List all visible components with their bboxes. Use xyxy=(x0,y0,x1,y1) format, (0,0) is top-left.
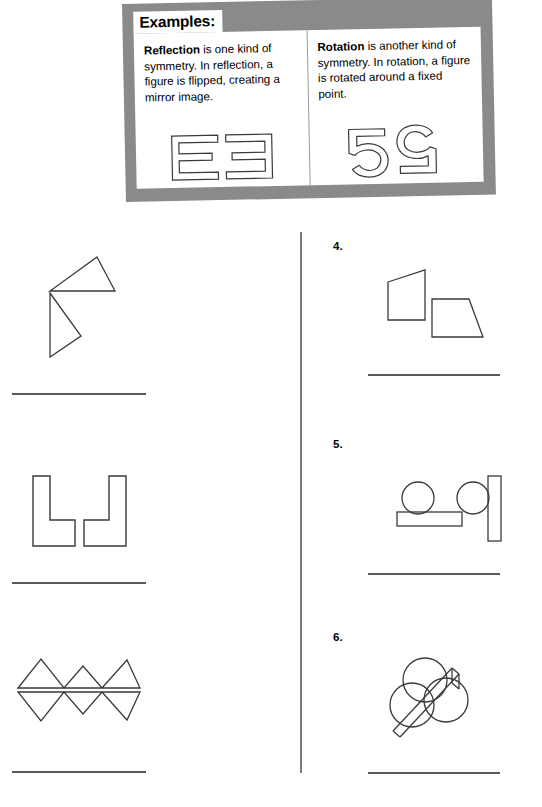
examples-panels: Reflection is one kind of symmetry. In r… xyxy=(134,27,484,189)
two-l-shapes-mirror-icon xyxy=(28,470,138,554)
examples-title-box: Examples: xyxy=(133,10,222,34)
answer-line-3[interactable] xyxy=(12,771,146,773)
reflection-term: Reflection xyxy=(144,42,200,56)
answer-line-1[interactable] xyxy=(12,393,146,395)
figure-circle-with-bar-pair xyxy=(378,464,498,536)
reflection-panel: Reflection is one kind of symmetry. In r… xyxy=(134,30,311,188)
answer-line-5[interactable] xyxy=(368,573,500,575)
figure-two-quadrilaterals xyxy=(380,262,495,346)
reflection-text: Reflection is one kind of symmetry. In r… xyxy=(144,39,299,104)
letter-e-and-mirrored-e-icon xyxy=(168,130,277,184)
figure-two-circles-with-diagonal-band xyxy=(388,655,488,743)
circle-with-bar-pair-icon xyxy=(378,464,498,536)
two-circles-with-diagonal-band-icon xyxy=(388,655,488,743)
column-divider xyxy=(300,232,302,773)
figure-two-l-shapes-mirror xyxy=(28,470,138,554)
two-triangles-flip-icon xyxy=(30,248,140,366)
figure-two-triangles-flip xyxy=(30,248,140,366)
answer-line-4[interactable] xyxy=(368,374,500,376)
reflection-glyph-holder xyxy=(136,129,310,184)
answer-line-6[interactable] xyxy=(368,772,500,774)
examples-title: Examples: xyxy=(139,12,215,31)
examples-banner: Examples: Reflection is one kind of symm… xyxy=(122,0,496,202)
question-number-5: 5. xyxy=(333,438,343,450)
figure-zigzag-pair-mirror xyxy=(12,650,152,728)
two-quadrilaterals-icon xyxy=(380,262,495,346)
digit-5-and-rotated-5-icon xyxy=(341,124,452,180)
rotation-term: Rotation xyxy=(317,39,364,53)
rotation-panel: Rotation is another kind of symmetry. In… xyxy=(307,27,484,185)
answer-line-2[interactable] xyxy=(12,582,146,584)
rotation-glyph-holder xyxy=(309,124,484,181)
question-number-6: 6. xyxy=(333,631,343,643)
question-number-4: 4. xyxy=(333,240,343,252)
zigzag-pair-mirror-icon xyxy=(12,650,152,728)
rotation-text: Rotation is another kind of symmetry. In… xyxy=(317,36,473,101)
